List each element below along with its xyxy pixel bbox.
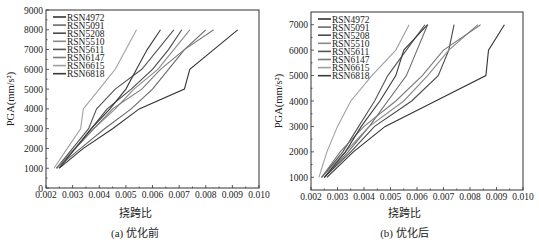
x-tick-label: 0.007 (433, 192, 455, 202)
chart-panel-b: 0.0020.0030.0040.0050.0060.0070.0080.009… (270, 0, 539, 244)
chart-a-xlabel: 挠跨比 (0, 204, 270, 220)
y-tick-label: 2000 (289, 147, 308, 157)
x-tick-label: 0.002 (300, 192, 322, 202)
chart-panel-a: 0.0020.0030.0040.0050.0060.0070.0080.009… (0, 0, 270, 244)
x-tick-label: 0.003 (62, 190, 84, 200)
y-axis-label: PGA(mm/s²) (5, 71, 17, 126)
y-tick-label: 7000 (24, 45, 43, 55)
y-tick-label: 9000 (24, 6, 43, 16)
x-tick-label: 0.004 (353, 192, 375, 202)
chart-b-xlabel: 挠跨比 (270, 204, 539, 220)
y-tick-label: 8000 (24, 25, 43, 35)
y-tick-label: 1000 (24, 164, 43, 174)
y-tick-label: 5000 (289, 71, 308, 81)
x-tick-label: 0.006 (142, 190, 164, 200)
y-tick-label: 2000 (24, 144, 43, 154)
x-tick-label: 0.005 (380, 192, 402, 202)
y-tick-label: 5000 (24, 85, 43, 95)
y-tick-label: 3000 (289, 122, 308, 132)
x-tick-label: 0.006 (406, 192, 428, 202)
legend-label: RSN6818 (67, 69, 105, 79)
y-tick-label: 0 (38, 184, 43, 194)
x-tick-label: 0.008 (459, 192, 481, 202)
chart-b-plot: 0.0020.0030.0040.0050.0060.0070.0080.009… (270, 0, 539, 205)
x-tick-label: 0.010 (248, 190, 270, 200)
y-tick-label: 3000 (24, 124, 43, 134)
x-tick-label: 0.004 (89, 190, 111, 200)
chart-a-plot: 0.0020.0030.0040.0050.0060.0070.0080.009… (0, 0, 270, 205)
x-tick-label: 0.003 (327, 192, 349, 202)
y-tick-label: 4000 (289, 97, 308, 107)
y-tick-label: 1000 (289, 173, 308, 183)
x-tick-label: 0.009 (486, 192, 508, 202)
y-tick-label: 4000 (24, 104, 43, 114)
x-tick-label: 0.005 (115, 190, 137, 200)
x-tick-label: 0.010 (512, 192, 534, 202)
x-tick-label: 0.008 (195, 190, 217, 200)
y-tick-label: 6000 (289, 46, 308, 56)
chart-a-caption: (a) 优化前 (0, 224, 270, 240)
x-tick-label: 0.009 (222, 190, 244, 200)
legend-label: RSN6818 (332, 71, 370, 81)
y-axis-label: PGA(mm/s²) (273, 73, 285, 128)
x-tick-label: 0.007 (168, 190, 190, 200)
y-tick-label: 6000 (24, 65, 43, 75)
chart-b-caption: (b) 优化后 (270, 224, 539, 240)
y-tick-label: 7000 (289, 20, 308, 30)
